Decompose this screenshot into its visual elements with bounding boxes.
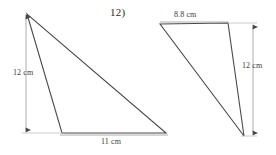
dimension-label-right-height: 12 cm (242, 61, 262, 70)
geometry-figures-canvas (0, 0, 276, 155)
dimension-label-left-base: 11 cm (101, 137, 121, 146)
dimension-label-left-height: 12 cm (13, 68, 33, 77)
triangle-outline-right (160, 23, 244, 136)
worksheet-page: ) 12) 12 cm 11 cm 8.8 cm 12 cm (0, 0, 276, 155)
figure-problem-12 (160, 22, 257, 136)
dimension-label-right-top: 8.8 cm (174, 10, 196, 19)
triangle-outline-left (27, 14, 166, 133)
figure-problem-11 (22, 14, 168, 135)
problem-number-12: 12) (110, 6, 125, 18)
